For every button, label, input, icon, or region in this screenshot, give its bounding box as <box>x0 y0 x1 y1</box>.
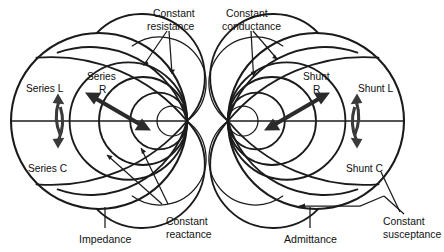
series-c-arrow-head <box>53 138 65 149</box>
constant-resistance-label-line2: resistance <box>147 21 195 32</box>
admittance-caption: Admittance <box>284 233 337 245</box>
shunt-r-label-line2: R <box>313 84 320 95</box>
constant-susceptance-label-line1: Constant <box>383 216 425 227</box>
constant-reactance-label-line1: Constant <box>166 216 208 227</box>
constant-susceptance-label-line2: susceptance <box>383 229 442 240</box>
constant-conductance-label-line2: conductance <box>222 21 281 32</box>
constant-conductance-leader-a-head <box>272 55 277 60</box>
shunt-c-label: Shunt C <box>346 163 383 174</box>
series-c-label: Series C <box>28 163 67 174</box>
series-r-label-line1: Series <box>87 71 116 82</box>
constant-conductance-leader-b <box>251 31 254 76</box>
constant-reactance-leader-a <box>107 155 162 204</box>
impedance-caption: Impedance <box>79 233 132 245</box>
smith-chart-figure: Constant resistance Constant conductance… <box>0 0 444 252</box>
shunt-r-label-line1: Shunt <box>303 71 330 82</box>
series-c-arrow-shaft <box>59 107 63 140</box>
shunt-c-arrow-head <box>351 138 363 149</box>
constant-conductance-label-line1: Constant <box>226 8 268 19</box>
series-l-label: Series L <box>26 83 64 94</box>
series-l-arrow-head <box>53 94 65 105</box>
smith-chart-diagram: Constant resistance Constant conductance… <box>0 0 444 252</box>
admittance-chart <box>209 14 404 228</box>
shunt-l-arrow-shaft <box>355 102 359 135</box>
series-l-arrow-shaft <box>56 102 60 135</box>
shunt-l-arrow-head <box>351 94 363 105</box>
constant-reactance-label-line2: reactance <box>166 229 212 240</box>
constant-susceptance-leader-c <box>381 172 400 212</box>
shunt-c-arrow-shaft <box>352 107 356 140</box>
series-r-label-line2: R <box>99 84 106 95</box>
constant-resistance-label-line1: Constant <box>153 8 195 19</box>
shunt-l-label: Shunt L <box>358 83 393 94</box>
impedance-chart <box>11 14 206 228</box>
